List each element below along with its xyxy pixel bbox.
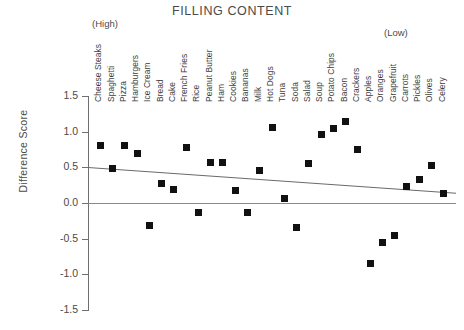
category-label: Tuna — [277, 83, 287, 102]
data-point — [121, 142, 128, 149]
x-axis-low-annotation: (Low) — [384, 27, 408, 38]
data-point — [440, 190, 447, 197]
category-label: Soup — [314, 82, 324, 102]
data-point — [416, 176, 423, 183]
category-label: Oranges — [375, 69, 385, 102]
category-label: Olives — [424, 78, 434, 102]
category-label: Grapefruit — [388, 64, 398, 102]
category-label: Apples — [363, 76, 373, 102]
data-point — [256, 167, 263, 174]
data-point — [158, 180, 165, 187]
data-point — [170, 186, 177, 193]
y-axis-tick — [82, 96, 89, 97]
chart-container: FILLING CONTENT (High) (Low) Difference … — [0, 0, 464, 330]
chart-title: FILLING CONTENT — [0, 4, 464, 18]
y-axis-tick-label: -1.5 — [38, 303, 78, 315]
category-label: Cheese Steaks — [93, 44, 103, 102]
category-label: Cake — [167, 82, 177, 102]
y-axis-tick — [82, 132, 89, 133]
y-axis-tick — [82, 310, 89, 311]
y-axis-tick-label: 1.0 — [38, 125, 78, 137]
data-point — [219, 159, 226, 166]
category-label: Milk — [253, 87, 263, 102]
category-label: Ice Cream — [142, 62, 152, 102]
category-label: Salad — [302, 80, 312, 102]
category-label: Ham — [216, 84, 226, 102]
data-point — [146, 222, 153, 229]
y-axis-title: Difference Score — [17, 76, 29, 226]
category-label: Cookies — [228, 71, 238, 102]
y-axis-tick-label: -1.0 — [38, 267, 78, 279]
y-axis-tick — [82, 239, 89, 240]
y-axis-tick-label: 0.0 — [38, 196, 78, 208]
data-point — [281, 195, 288, 202]
category-label: Hamburgers — [130, 55, 140, 102]
data-point — [342, 118, 349, 125]
data-point — [207, 159, 214, 166]
data-point — [97, 142, 104, 149]
category-label: Hot Dogs — [265, 66, 275, 102]
data-point — [183, 144, 190, 151]
data-point — [379, 239, 386, 246]
category-label: Bread — [155, 79, 165, 102]
data-point — [403, 183, 410, 190]
data-point — [354, 146, 361, 153]
category-label: Spaghetti — [106, 66, 116, 102]
trend-line — [88, 167, 456, 194]
y-axis-tick-label: 0.5 — [38, 160, 78, 172]
data-point — [134, 150, 141, 157]
category-label: Pizza — [118, 81, 128, 102]
data-point — [293, 224, 300, 231]
x-axis-high-annotation: (High) — [92, 18, 118, 29]
category-label: Peanut Butter — [204, 49, 214, 102]
y-axis-tick-label: -0.5 — [38, 232, 78, 244]
category-label: Celery — [437, 77, 447, 102]
y-axis-tick — [82, 274, 89, 275]
data-point — [318, 131, 325, 138]
category-label: French Fries — [179, 54, 189, 102]
category-label: Potato Chips — [326, 53, 336, 102]
category-label: Carrots — [400, 74, 410, 102]
y-axis-tick-label: 1.5 — [38, 89, 78, 101]
data-point — [330, 125, 337, 132]
data-point — [367, 260, 374, 267]
category-label: Pickles — [412, 75, 422, 102]
category-label: Rice — [191, 85, 201, 102]
data-point — [232, 187, 239, 194]
category-label: Bananas — [240, 68, 250, 102]
data-point — [428, 162, 435, 169]
category-label: Soda — [290, 82, 300, 102]
data-point — [244, 209, 251, 216]
data-point — [269, 124, 276, 131]
data-point — [391, 232, 398, 239]
zero-reference-line — [88, 203, 456, 204]
category-label: Bacon — [339, 78, 349, 102]
data-point — [305, 160, 312, 167]
category-label: Crackers — [351, 68, 361, 102]
data-point — [109, 165, 116, 172]
data-point — [195, 209, 202, 216]
